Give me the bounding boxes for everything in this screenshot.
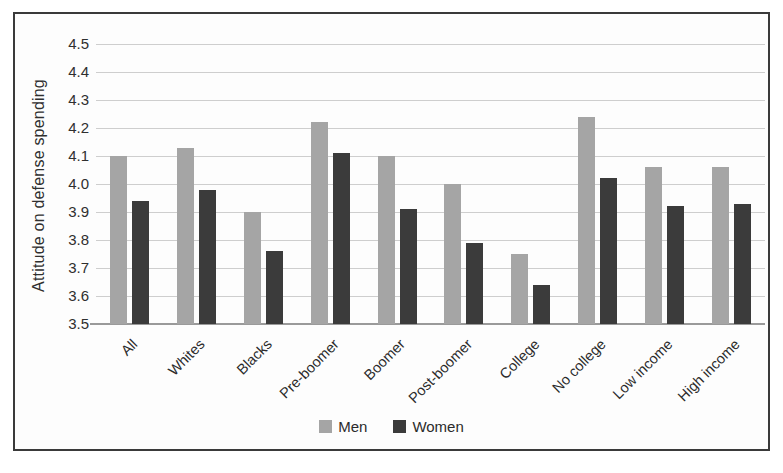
men-bar-boomer [378, 156, 395, 324]
men-bar-low-income [645, 167, 662, 324]
legend-label-men: Men [338, 418, 367, 435]
x-tick-label-college: College [496, 336, 542, 382]
chart-frame: Attitude on defense spending 4.54.44.34.… [13, 12, 770, 451]
bar-group-post-boomer [431, 44, 498, 324]
bar-group-college [497, 44, 564, 324]
men-bar-high-income [712, 167, 729, 324]
bar-group-blacks [230, 44, 297, 324]
men-bar-pre-boomer [311, 122, 328, 324]
men-bar-college [511, 254, 528, 324]
bar-group-boomer [364, 44, 431, 324]
y-tick-label-4.5: 4.5 [39, 35, 89, 53]
women-bar-blacks [266, 251, 283, 324]
x-tick-label-high-income: High income [675, 336, 743, 404]
legend-item-women: Women [393, 418, 463, 435]
y-tick-label-3.7: 3.7 [39, 259, 89, 277]
x-tick-label-no-college: No college [549, 336, 609, 396]
plot-area [96, 44, 765, 324]
x-tick-label-low-income: Low income [610, 336, 676, 402]
men-bar-no-college [578, 117, 595, 324]
men-bar-all [110, 156, 127, 324]
women-bar-college [533, 285, 550, 324]
y-tick-label-3.6: 3.6 [39, 287, 89, 305]
x-tick-label-post-boomer: Post-boomer [405, 336, 475, 406]
bar-group-no-college [564, 44, 631, 324]
legend: MenWomen [15, 418, 768, 435]
y-tick-label-4.1: 4.1 [39, 147, 89, 165]
women-bar-whites [199, 190, 216, 324]
men-bar-blacks [244, 212, 261, 324]
legend-label-women: Women [412, 418, 463, 435]
y-tick-label-3.8: 3.8 [39, 231, 89, 249]
bar-group-whites [163, 44, 230, 324]
x-axis-labels: AllWhitesBlacksPre-boomerBoomerPost-boom… [96, 326, 765, 416]
women-bar-high-income [734, 204, 751, 324]
x-tick-label-all: All [118, 336, 141, 359]
y-tick-label-4.2: 4.2 [39, 119, 89, 137]
bar-group-low-income [631, 44, 698, 324]
legend-swatch-women [393, 420, 406, 433]
men-bar-post-boomer [444, 184, 461, 324]
bar-group-high-income [698, 44, 765, 324]
women-bar-boomer [400, 209, 417, 324]
y-tick-label-3.9: 3.9 [39, 203, 89, 221]
women-bar-no-college [600, 178, 617, 324]
bar-group-pre-boomer [297, 44, 364, 324]
y-tick-label-4.4: 4.4 [39, 63, 89, 81]
x-tick-label-blacks: Blacks [233, 336, 275, 378]
legend-swatch-men [319, 420, 332, 433]
y-tick-label-3.5: 3.5 [39, 315, 89, 333]
women-bar-post-boomer [466, 243, 483, 324]
x-tick-label-pre-boomer: Pre-boomer [276, 336, 341, 401]
women-bar-low-income [667, 206, 684, 324]
x-tick-label-boomer: Boomer [361, 336, 408, 383]
women-bar-pre-boomer [333, 153, 350, 324]
y-tick-label-4.3: 4.3 [39, 91, 89, 109]
x-tick-label-whites: Whites [165, 336, 208, 379]
bar-group-all [96, 44, 163, 324]
women-bar-all [132, 201, 149, 324]
legend-item-men: Men [319, 418, 367, 435]
y-tick-label-4.0: 4.0 [39, 175, 89, 193]
men-bar-whites [177, 148, 194, 324]
